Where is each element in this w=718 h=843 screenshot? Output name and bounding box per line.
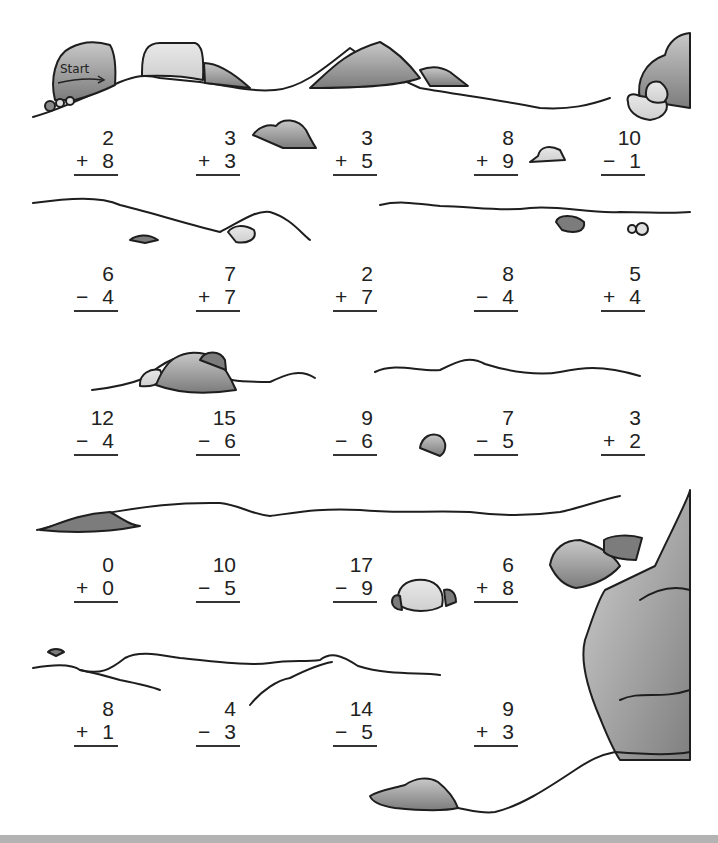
problem-bottom-number: 6 <box>361 429 373 452</box>
math-problem: 3+2 <box>601 406 645 456</box>
problem-bottom-line: −6 <box>196 429 240 456</box>
operator: − <box>198 429 210 452</box>
problem-bottom-number: 5 <box>224 576 236 599</box>
math-problem: 4−3 <box>196 697 240 747</box>
math-problem: 10−1 <box>601 126 645 176</box>
problem-top-number: 12 <box>74 406 118 429</box>
problem-top-number: 15 <box>196 406 240 429</box>
math-problem: 0+0 <box>74 553 118 603</box>
problem-bottom-line: +0 <box>74 576 118 603</box>
problem-bottom-number: 8 <box>502 576 514 599</box>
operator: − <box>476 285 488 308</box>
operator: + <box>476 149 488 172</box>
operator: + <box>476 720 488 743</box>
operator: + <box>76 720 88 743</box>
problem-bottom-number: 5 <box>361 149 373 172</box>
operator: − <box>198 576 210 599</box>
problem-top-number: 7 <box>196 262 240 285</box>
problem-top-number: 6 <box>474 553 518 576</box>
math-problem: 17−9 <box>333 553 377 603</box>
problem-bottom-number: 5 <box>502 429 514 452</box>
math-problem: 14−5 <box>333 697 377 747</box>
problem-bottom-number: 6 <box>224 429 236 452</box>
problem-top-number: 14 <box>333 697 377 720</box>
bottom-bar <box>0 835 718 843</box>
problem-top-number: 7 <box>474 406 518 429</box>
problem-bottom-number: 2 <box>629 429 641 452</box>
operator: + <box>603 285 615 308</box>
problem-bottom-line: +3 <box>196 149 240 176</box>
math-problem: 9+3 <box>474 697 518 747</box>
problem-top-number: 10 <box>601 126 645 149</box>
operator: + <box>335 285 347 308</box>
operator: + <box>198 149 210 172</box>
problem-bottom-line: −4 <box>74 429 118 456</box>
math-problem: 9−6 <box>333 406 377 456</box>
operator: − <box>198 720 210 743</box>
problem-top-number: 4 <box>196 697 240 720</box>
problem-bottom-line: −5 <box>333 720 377 747</box>
math-problem: 8+9 <box>474 126 518 176</box>
problem-bottom-line: −6 <box>333 429 377 456</box>
problem-bottom-number: 3 <box>224 720 236 743</box>
problem-bottom-line: −1 <box>601 149 645 176</box>
math-problem: 10−5 <box>196 553 240 603</box>
math-problem: 15−6 <box>196 406 240 456</box>
problem-bottom-line: −3 <box>196 720 240 747</box>
operator: + <box>198 285 210 308</box>
problem-bottom-line: −9 <box>333 576 377 603</box>
operator: − <box>335 576 347 599</box>
problem-top-number: 17 <box>333 553 377 576</box>
math-problem: 3+5 <box>333 126 377 176</box>
operator: − <box>603 149 615 172</box>
problem-bottom-number: 4 <box>102 429 114 452</box>
problem-top-number: 3 <box>601 406 645 429</box>
problem-top-number: 5 <box>601 262 645 285</box>
problem-bottom-line: +5 <box>333 149 377 176</box>
problem-bottom-line: +7 <box>333 285 377 312</box>
problem-top-number: 9 <box>474 697 518 720</box>
problem-bottom-line: +2 <box>601 429 645 456</box>
problem-bottom-number: 9 <box>502 149 514 172</box>
problem-bottom-line: +8 <box>74 149 118 176</box>
math-problem: 12−4 <box>74 406 118 456</box>
operator: + <box>603 429 615 452</box>
problem-bottom-line: −5 <box>474 429 518 456</box>
problem-top-number: 0 <box>74 553 118 576</box>
problem-bottom-number: 4 <box>102 285 114 308</box>
problem-bottom-number: 9 <box>361 576 373 599</box>
operator: + <box>76 576 88 599</box>
math-problem: 8−4 <box>474 262 518 312</box>
start-label: Start <box>60 62 90 76</box>
problem-bottom-line: +9 <box>474 149 518 176</box>
operator: − <box>476 429 488 452</box>
problem-bottom-line: +1 <box>74 720 118 747</box>
problem-top-number: 9 <box>333 406 377 429</box>
math-problem: 7+7 <box>196 262 240 312</box>
problem-bottom-line: +4 <box>601 285 645 312</box>
problem-bottom-number: 7 <box>361 285 373 308</box>
operator: − <box>335 429 347 452</box>
problem-bottom-number: 3 <box>224 149 236 172</box>
math-problem: 2+8 <box>74 126 118 176</box>
problem-top-number: 8 <box>74 697 118 720</box>
operator: − <box>335 720 347 743</box>
problem-top-number: 2 <box>333 262 377 285</box>
math-problem: 6−4 <box>74 262 118 312</box>
problem-top-number: 3 <box>196 126 240 149</box>
problem-bottom-line: +8 <box>474 576 518 603</box>
problem-top-number: 6 <box>74 262 118 285</box>
problem-bottom-line: +3 <box>474 720 518 747</box>
problem-top-number: 8 <box>474 126 518 149</box>
problem-bottom-number: 4 <box>502 285 514 308</box>
problem-bottom-number: 0 <box>102 576 114 599</box>
math-problem: 8+1 <box>74 697 118 747</box>
operator: − <box>76 429 88 452</box>
operator: + <box>76 149 88 172</box>
problem-top-number: 10 <box>196 553 240 576</box>
problem-bottom-line: +7 <box>196 285 240 312</box>
problem-bottom-number: 8 <box>102 149 114 172</box>
operator: + <box>335 149 347 172</box>
problem-bottom-line: −4 <box>474 285 518 312</box>
math-problem: 3+3 <box>196 126 240 176</box>
